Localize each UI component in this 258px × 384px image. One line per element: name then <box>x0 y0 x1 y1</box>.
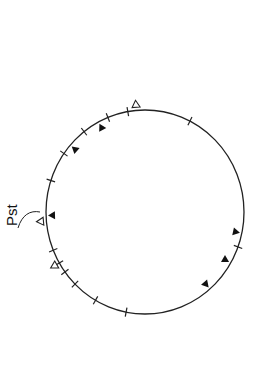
tick-mark <box>127 107 129 116</box>
tick-mark <box>188 117 192 125</box>
open-triangle-icon <box>49 261 59 271</box>
open-triangle-icon <box>36 217 44 226</box>
tick-mark <box>81 128 86 135</box>
pst-pointer-arrow <box>18 212 40 228</box>
filled-triangle-icon <box>48 211 55 219</box>
filled-triangle-icon <box>232 227 241 236</box>
filled-triangle-icon <box>96 122 106 132</box>
tick-mark <box>125 308 127 317</box>
open-triangle-icon <box>132 100 141 108</box>
filled-triangle-markers <box>48 122 241 290</box>
circular-map <box>0 0 258 384</box>
tick-mark <box>61 269 68 274</box>
tick-mark <box>93 296 97 304</box>
pst-label: Pst <box>4 204 19 226</box>
tick-mark <box>60 151 67 156</box>
